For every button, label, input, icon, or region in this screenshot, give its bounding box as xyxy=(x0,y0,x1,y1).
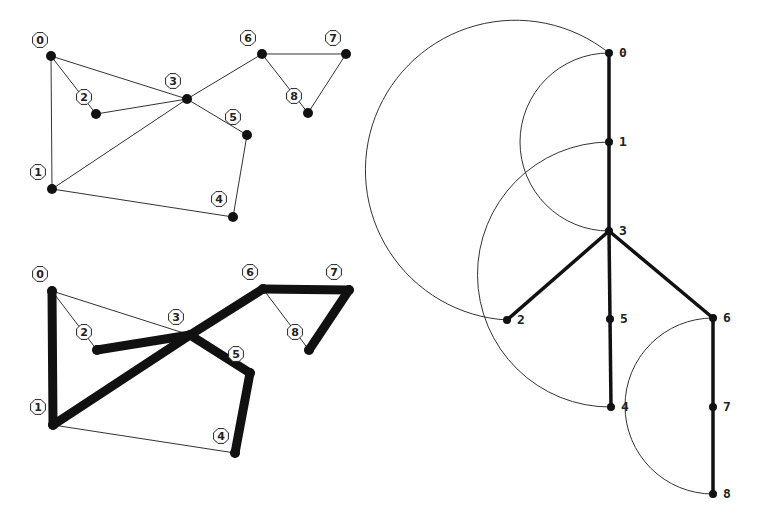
node-label-0: 0 xyxy=(33,267,48,282)
node-label-8: 8 xyxy=(288,325,303,340)
node-6 xyxy=(257,49,267,59)
tree-node-label-8: 8 xyxy=(723,486,731,501)
node-1 xyxy=(48,420,58,430)
back-edge-arc-6-8 xyxy=(625,318,713,494)
tree-edge-3-6 xyxy=(190,289,263,335)
node-label-1: 1 xyxy=(31,165,46,180)
svg-text:0: 0 xyxy=(36,34,44,47)
tree-node-7 xyxy=(709,403,717,411)
tree-node-5 xyxy=(606,315,614,323)
tree-node-2 xyxy=(503,316,511,324)
back-edge-arc-0-2 xyxy=(365,20,609,320)
node-label-4: 4 xyxy=(214,429,229,444)
node-label-4: 4 xyxy=(212,192,227,207)
tree-node-3 xyxy=(605,227,613,235)
tree-node-label-2: 2 xyxy=(517,312,525,327)
svg-text:4: 4 xyxy=(215,193,223,206)
tree-node-4 xyxy=(607,403,615,411)
tree-node-label-7: 7 xyxy=(723,399,731,414)
svg-text:6: 6 xyxy=(246,266,254,279)
tree-edge-5-4 xyxy=(610,319,611,407)
tree-edge-7-8 xyxy=(309,290,349,350)
node-label-7: 7 xyxy=(326,31,341,46)
svg-text:7: 7 xyxy=(330,266,338,279)
svg-text:1: 1 xyxy=(34,401,42,414)
tree-edge-0-1 xyxy=(52,291,53,425)
node-label-2: 2 xyxy=(77,325,92,340)
node-3 xyxy=(185,330,195,340)
svg-text:6: 6 xyxy=(244,32,252,45)
tree-edge-3-6 xyxy=(609,231,713,318)
tree-node-6 xyxy=(709,314,717,322)
edge-6-8 xyxy=(262,54,308,113)
node-0 xyxy=(46,51,56,61)
node-1 xyxy=(47,184,57,194)
dfs-tree-diagram: 013254678 xyxy=(365,20,731,501)
node-7 xyxy=(341,49,351,59)
node-label-3: 3 xyxy=(166,74,181,89)
tree-edge-3-2 xyxy=(507,231,609,320)
node-2 xyxy=(92,345,102,355)
node-6 xyxy=(258,284,268,294)
edge-1-3 xyxy=(52,99,187,189)
original-graph: 012345678 xyxy=(31,31,351,222)
svg-text:1: 1 xyxy=(34,166,42,179)
tree-node-label-5: 5 xyxy=(620,311,628,326)
svg-text:0: 0 xyxy=(36,268,44,281)
node-label-1: 1 xyxy=(31,400,46,415)
node-0 xyxy=(47,286,57,296)
edge-6-8 xyxy=(263,289,309,350)
svg-text:5: 5 xyxy=(229,111,237,124)
tree-node-label-4: 4 xyxy=(621,399,629,414)
node-3 xyxy=(182,94,192,104)
edge-1-4 xyxy=(52,189,233,217)
tree-node-8 xyxy=(709,490,717,498)
edge-3-6 xyxy=(187,54,262,99)
tree-node-1 xyxy=(605,138,613,146)
edge-7-8 xyxy=(308,54,346,113)
node-label-3: 3 xyxy=(169,310,184,325)
edge-0-1 xyxy=(51,56,52,189)
svg-text:3: 3 xyxy=(169,75,177,88)
node-8 xyxy=(303,108,313,118)
svg-text:5: 5 xyxy=(232,348,240,361)
tree-node-label-6: 6 xyxy=(723,310,731,325)
node-label-5: 5 xyxy=(226,110,241,125)
node-label-6: 6 xyxy=(241,31,256,46)
edge-5-4 xyxy=(233,135,247,217)
svg-text:7: 7 xyxy=(329,32,337,45)
tree-node-label-3: 3 xyxy=(619,223,627,238)
dfs-highlighted-graph: 012345678 xyxy=(31,265,354,458)
svg-text:8: 8 xyxy=(290,90,298,103)
svg-text:4: 4 xyxy=(217,430,225,443)
node-7 xyxy=(344,285,354,295)
svg-text:3: 3 xyxy=(172,311,180,324)
node-label-0: 0 xyxy=(33,33,48,48)
tree-edge-5-4 xyxy=(235,373,250,453)
tree-node-0 xyxy=(605,49,613,57)
node-label-6: 6 xyxy=(243,265,258,280)
node-label-8: 8 xyxy=(287,89,302,104)
node-label-2: 2 xyxy=(77,90,92,105)
edge-2-3 xyxy=(96,99,187,114)
node-2 xyxy=(91,109,101,119)
node-label-7: 7 xyxy=(327,265,342,280)
svg-text:8: 8 xyxy=(291,326,299,339)
node-4 xyxy=(228,212,238,222)
edge-0-2 xyxy=(51,56,96,114)
node-8 xyxy=(304,345,314,355)
tree-edge-6-7 xyxy=(263,289,349,290)
tree-node-label-0: 0 xyxy=(619,45,627,60)
node-4 xyxy=(230,448,240,458)
node-label-5: 5 xyxy=(229,347,244,362)
tree-edge-3-5 xyxy=(609,231,610,319)
node-5 xyxy=(242,130,252,140)
edge-1-4 xyxy=(53,425,235,453)
node-5 xyxy=(245,368,255,378)
back-edge-arc-0-3 xyxy=(520,53,609,231)
back-edge-arc-1-4 xyxy=(477,142,611,407)
svg-text:2: 2 xyxy=(80,91,88,104)
edge-0-2 xyxy=(52,291,97,350)
svg-text:2: 2 xyxy=(80,326,88,339)
graph-dfs-figure: 012345678 012345678 013254678 xyxy=(0,0,758,514)
